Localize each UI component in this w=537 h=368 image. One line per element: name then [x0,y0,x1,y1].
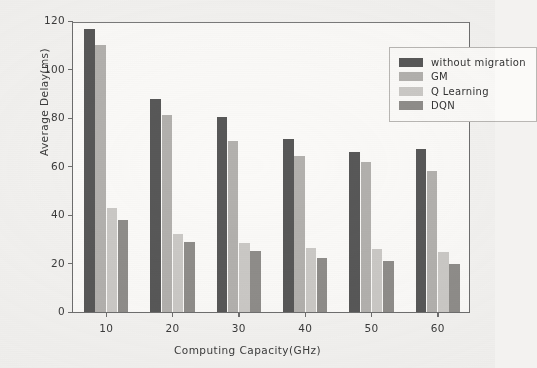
bar-without-migration-20 [150,99,161,312]
x-tick-label: 50 [352,322,392,334]
y-tick-label: 100 [35,63,65,75]
bar-without-migration-60 [416,149,427,312]
y-tick-label: 120 [35,14,65,26]
y-tick-mark [68,166,73,167]
x-tick-mark [238,312,239,317]
x-tick-label: 60 [418,322,458,334]
y-tick-label: 0 [35,305,65,317]
bar-gm-20 [162,115,173,312]
bar-without-migration-40 [283,139,294,312]
bar-dqn-50 [383,261,394,312]
x-tick-label: 40 [285,322,325,334]
bar-q-learning-40 [306,248,317,312]
chart-legend: without migration GM Q Learning DQN [389,47,537,122]
y-tick-label: 60 [35,160,65,172]
bar-q-learning-30 [239,243,250,312]
y-tick-label: 20 [35,257,65,269]
legend-item: DQN [399,99,528,114]
y-tick-mark [68,263,73,264]
x-tick-mark [106,312,107,317]
x-tick-mark [371,312,372,317]
bar-without-migration-30 [217,117,228,312]
legend-label: Q Learning [431,86,489,97]
legend-label: GM [431,71,448,82]
x-tick-label: 30 [219,322,259,334]
y-tick-mark [68,312,73,313]
x-tick-label: 10 [86,322,126,334]
bar-dqn-20 [184,242,195,312]
legend-item: without migration [399,55,528,70]
legend-item: Q Learning [399,84,528,99]
x-axis-label: Computing Capacity(GHz) [0,344,495,356]
y-tick-mark [68,215,73,216]
bar-gm-60 [427,171,438,312]
y-tick-label: 80 [35,111,65,123]
x-tick-mark [305,312,306,317]
bar-gm-10 [95,45,106,312]
legend-swatch-dqn [399,101,423,110]
legend-swatch-without-migration [399,58,423,67]
x-tick-mark [437,312,438,317]
bar-without-migration-10 [84,29,95,312]
bar-without-migration-50 [349,152,360,312]
y-tick-label: 40 [35,208,65,220]
bar-dqn-30 [250,251,261,312]
y-tick-mark [68,118,73,119]
x-tick-mark [172,312,173,317]
y-tick-mark [68,69,73,70]
bar-q-learning-50 [372,249,383,312]
legend-item: GM [399,70,528,85]
bar-dqn-10 [118,220,129,312]
legend-label: without migration [431,57,526,68]
bar-gm-40 [294,156,305,312]
plot-area: 020406080100120 102030405060 without mig… [72,22,470,313]
y-axis-label: Average Delay(ms) [38,22,50,182]
legend-swatch-q-learning [399,87,423,96]
y-tick-mark [68,21,73,22]
bar-q-learning-20 [173,234,184,312]
bar-gm-50 [361,162,372,312]
legend-swatch-gm [399,72,423,81]
bar-dqn-40 [317,258,328,312]
bar-dqn-60 [449,264,460,312]
x-tick-label: 20 [153,322,193,334]
legend-label: DQN [431,100,455,111]
bar-q-learning-60 [438,252,449,312]
bar-gm-30 [228,141,239,312]
bar-q-learning-10 [107,208,118,312]
